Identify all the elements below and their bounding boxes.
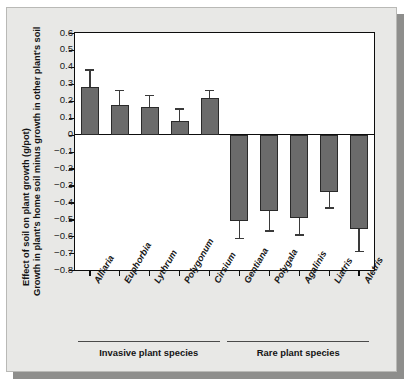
y-tick-label: −0.2: [54, 162, 73, 173]
x-tick-mark: [269, 270, 270, 276]
plot-area: 0.60.50.40.30.20.10−0.1−0.2−0.3−0.4−0.5−…: [74, 32, 375, 271]
x-tick-mark: [89, 270, 90, 276]
bar: [320, 135, 338, 193]
error-bar-cap: [235, 238, 244, 239]
bar: [171, 121, 189, 135]
error-bar-cap: [145, 95, 154, 96]
y-tick-label: 0.6: [60, 27, 73, 38]
y-tick-label: 0.3: [60, 77, 73, 88]
error-bar: [239, 221, 240, 238]
y-tick-label: 0.2: [60, 94, 73, 105]
error-bar: [119, 90, 120, 105]
group-rule: [78, 341, 220, 342]
y-tick-label: 0.4: [60, 60, 73, 71]
y-tick-label: −0.1: [54, 145, 73, 156]
y-tick-label: 0: [68, 128, 73, 139]
group-label: Rare plant species: [227, 347, 369, 358]
error-bar: [269, 211, 270, 230]
bar: [230, 135, 248, 221]
y-axis-title: Effect of soil on plant growth (g/pot) G…: [0, 0, 46, 300]
bar: [141, 107, 159, 135]
x-tick-mark: [239, 270, 240, 276]
x-tick-mark: [329, 270, 330, 276]
error-bar-cap: [325, 207, 334, 208]
figure-shadow-bottom: [13, 372, 404, 379]
figure-shadow-right: [397, 14, 404, 379]
error-bar-cap: [295, 234, 304, 235]
y-axis-title-line-2: Growth in plant's home soil minus growth…: [32, 27, 42, 296]
error-bar: [149, 95, 150, 107]
error-bar-cap: [115, 90, 124, 91]
error-bar: [299, 218, 300, 235]
x-tick-mark: [209, 270, 210, 276]
error-bar-cap: [355, 251, 364, 252]
error-bar-cap: [85, 69, 94, 70]
group-rule: [227, 341, 369, 342]
group-label: Invasive plant species: [78, 347, 220, 358]
y-axis-title-line-1: Effect of soil on plant growth (g/pot): [21, 128, 31, 286]
bar: [260, 135, 278, 211]
y-tick-label: 0.5: [60, 43, 73, 54]
bar: [111, 105, 129, 135]
bar: [350, 135, 368, 230]
error-bar-cap: [265, 230, 274, 231]
y-tick-label: −0.8: [54, 264, 73, 275]
error-bar: [358, 229, 359, 250]
error-bar-cap: [205, 90, 214, 91]
y-tick-label: 0.1: [60, 111, 73, 122]
y-tick-label: −0.5: [54, 213, 73, 224]
bar: [290, 135, 308, 218]
y-tick-label: −0.4: [54, 196, 73, 207]
error-bar: [89, 69, 90, 87]
y-tick-label: −0.3: [54, 179, 73, 190]
x-tick-mark: [358, 270, 359, 276]
y-tick-label: −0.6: [54, 230, 73, 241]
x-tick-mark: [179, 270, 180, 276]
y-tick-label: −0.7: [54, 247, 73, 258]
x-tick-mark: [149, 270, 150, 276]
bar: [201, 98, 219, 134]
x-tick-mark: [119, 270, 120, 276]
bar: [81, 87, 99, 134]
error-bar: [329, 192, 330, 207]
x-tick-mark: [299, 270, 300, 276]
error-bar: [179, 108, 180, 121]
error-bar-cap: [175, 108, 184, 109]
